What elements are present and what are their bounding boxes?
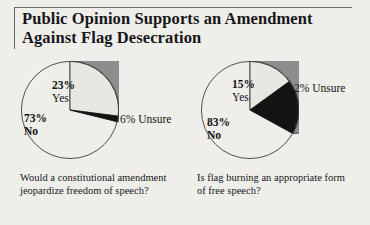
chart-page: Public Opinion Supports an Amendment Aga… [0, 0, 370, 225]
slice-callout-unsure-left: 6% Unsure [120, 113, 171, 125]
slice-label-yes-right-name: Yes [232, 91, 255, 104]
pie-chart-left-svg [21, 61, 119, 159]
pie-chart-left [21, 61, 119, 159]
pie-caption-left-line-1: Would a constitutional amendment [20, 172, 185, 185]
pie-caption-right-line-2: of free speech? [197, 185, 367, 198]
slice-label-no-right: 83% No [207, 116, 230, 141]
slice-callout-unsure-right: 2% Unsure [294, 82, 345, 94]
pie-panel-right: 15% Yes 83% No 2% Unsure Is flag burning… [185, 0, 370, 225]
slice-label-no-left-name: No [24, 125, 47, 138]
pie-panel-left: 23% Yes 73% No 6% Unsure Would a constit… [0, 0, 185, 225]
pie-chart-right [201, 61, 299, 159]
slice-label-no-right-pct: 83% [207, 116, 230, 129]
slice-label-yes-right: 15% Yes [232, 78, 255, 103]
pie-chart-right-svg [201, 61, 299, 159]
slice-label-yes-right-pct: 15% [232, 78, 255, 91]
pie-caption-right: Is flag burning an appropriate form of f… [197, 172, 367, 197]
slice-label-no-left: 73% No [24, 112, 47, 137]
slice-label-no-right-name: No [207, 129, 230, 142]
pie-caption-right-line-1: Is flag burning an appropriate form [197, 172, 367, 185]
slice-label-yes-left: 23% Yes [52, 79, 75, 104]
pie-caption-left: Would a constitutional amendment jeopard… [20, 172, 185, 197]
pie-caption-left-line-2: jeopardize freedom of speech? [20, 185, 185, 198]
slice-label-yes-left-pct: 23% [52, 79, 75, 92]
slice-label-no-left-pct: 73% [24, 112, 47, 125]
slice-label-yes-left-name: Yes [52, 92, 75, 105]
